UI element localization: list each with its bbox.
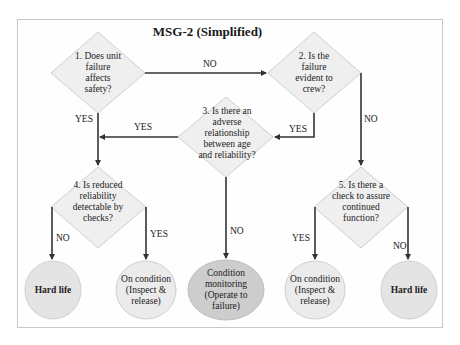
outcome-text-3: Condition monitoring (Operate to failure… xyxy=(194,268,258,312)
edge-label-q5-o4: YES xyxy=(292,233,310,243)
decision-text-2: 2. Is the failure evident to crew? xyxy=(289,51,339,95)
edge-label-q1-q4: YES xyxy=(75,114,93,124)
outcome-text-1: Hard life xyxy=(33,270,73,310)
edge-label-q2-q3: YES xyxy=(289,124,307,134)
outcome-text-4: On condition (Inspect & release) xyxy=(290,268,340,312)
decision-text-1: 1. Does unit failure affects safety? xyxy=(72,51,124,95)
edge-label-q3-o3: NO xyxy=(230,226,244,236)
outcome-text-5: Hard life xyxy=(389,270,429,310)
decision-text-4: 4. Is reduced reliability detectable by … xyxy=(70,180,126,224)
decision-text-3: 3. Is there an adverse relationship betw… xyxy=(198,106,256,161)
edge-label-q3-q4: YES xyxy=(134,122,152,132)
decision-text-5: 5. Is there a check to assure continued … xyxy=(331,180,391,224)
edge-label-q4-o1: NO xyxy=(56,233,70,243)
edge-label-q2-q5: NO xyxy=(364,114,378,124)
diagram-title: MSG-2 (Simplified) xyxy=(120,24,295,40)
edge-label-q5-o5: NO xyxy=(393,241,407,251)
outcome-text-2: On condition (Inspect & release) xyxy=(121,268,171,312)
edge-label-q1-q2: NO xyxy=(203,59,217,69)
edge-label-q4-o2: YES xyxy=(150,229,168,239)
